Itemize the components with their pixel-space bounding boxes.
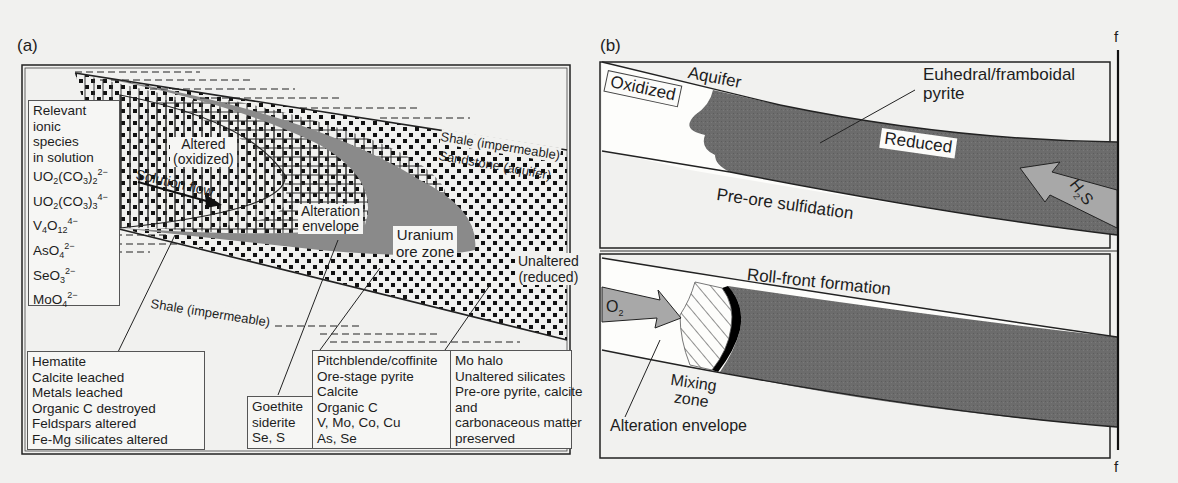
ore-callout-box: Pitchblende/coffinite Ore-stage pyrite C…	[312, 350, 452, 449]
species-seo3: SeO32−	[33, 264, 115, 289]
envelope-callout-box: Goethite siderite Se, S	[247, 396, 315, 449]
uranium-ore-zone-label: Uranium ore zone	[393, 226, 457, 260]
euhedral-pyrite-label: Euhedral/framboidal pyrite	[923, 65, 1075, 103]
ionic-heading-4: in solution	[33, 150, 115, 166]
ionic-heading-3: species	[33, 134, 115, 150]
alteration-envelope-b-label: Alteration envelope	[610, 417, 747, 435]
species-v4o12: V4O124−	[33, 214, 115, 239]
fault-label-bottom: f	[1114, 458, 1118, 475]
mixing-zone-label: Mixing zone	[667, 371, 718, 411]
alteration-envelope-label: Alteration envelope	[298, 204, 363, 234]
species-uo2co3-3: UO2(CO3)34−	[33, 190, 115, 215]
unaltered-callout-box: Mo halo Unaltered silicates Pre-ore pyri…	[450, 350, 572, 449]
ionic-species-box: Relevant ionic species in solution UO2(C…	[28, 100, 120, 306]
panel-b-label: (b)	[600, 36, 621, 56]
o2-label: O2	[606, 298, 623, 318]
altered-zone-label: Altered (oxidized)	[170, 137, 237, 167]
unaltered-zone-label: Unaltered (reduced)	[516, 253, 581, 285]
species-uo2co3-2: UO2(CO3)22−	[33, 165, 115, 190]
ionic-heading-2: ionic	[33, 119, 115, 135]
species-aso4: AsO42−	[33, 239, 115, 264]
altered-callout-box: Hematite Calcite leached Metals leached …	[27, 351, 205, 450]
fault-label-top: f	[1114, 28, 1118, 45]
species-moo4: MoO42−	[33, 288, 115, 313]
ionic-heading-1: Relevant	[33, 103, 115, 119]
